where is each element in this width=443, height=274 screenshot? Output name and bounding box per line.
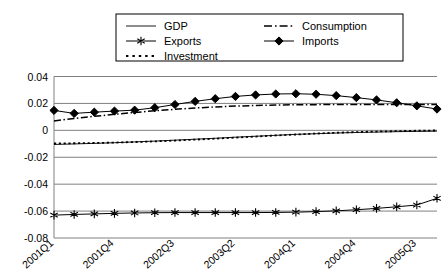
legend-item-exports-label: Exports bbox=[164, 35, 202, 47]
y-tick-label-5: -0.06 bbox=[24, 205, 48, 217]
legend-item-investment-label: Investment bbox=[164, 50, 218, 62]
y-tick-label-0: 0.04 bbox=[28, 71, 49, 83]
legend-item-imports-label: Imports bbox=[302, 35, 339, 47]
y-tick-label-1: 0.02 bbox=[28, 97, 49, 109]
y-tick-label-3: -0.02 bbox=[24, 151, 48, 163]
quarterly-macro-indicators-line-chart: GDPExportsInvestmentConsumptionImports 0… bbox=[0, 0, 443, 274]
y-tick-label-4: -0.04 bbox=[24, 178, 48, 190]
chart-legend: GDPExportsInvestmentConsumptionImports bbox=[116, 14, 403, 62]
legend-item-gdp-label: GDP bbox=[164, 20, 188, 32]
y-tick-label-2: 0 bbox=[42, 124, 48, 136]
legend-item-consumption-label: Consumption bbox=[302, 20, 367, 32]
chart-container: GDPExportsInvestmentConsumptionImports 0… bbox=[0, 0, 443, 274]
